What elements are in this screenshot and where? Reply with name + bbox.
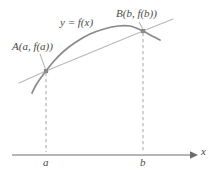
- figure-canvas: [0, 0, 213, 174]
- point-b-marker: [141, 29, 145, 33]
- leader-line-a: [40, 54, 45, 69]
- x-tick-label-a: a: [43, 157, 49, 168]
- point-b-label: B(b, f(b)): [116, 8, 157, 19]
- leader-line-b: [139, 22, 143, 29]
- function-label: y = f(x): [60, 17, 93, 28]
- point-a-marker: [44, 69, 48, 73]
- x-axis-label: x: [201, 146, 206, 157]
- figure-container: y = f(x) A(a, f(a)) B(b, f(b)) a b x: [0, 0, 213, 174]
- x-axis-arrow-icon: [190, 151, 198, 158]
- function-curve: [32, 25, 160, 93]
- point-a-label: A(a, f(a)): [12, 41, 53, 52]
- x-tick-label-b: b: [140, 157, 146, 168]
